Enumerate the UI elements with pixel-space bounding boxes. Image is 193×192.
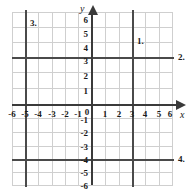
y-tick-label: -4 <box>77 156 88 165</box>
x-axis <box>12 104 177 106</box>
line-label-1: 1. <box>137 37 144 46</box>
line-label-3: 3. <box>30 19 37 28</box>
y-tick-label: -2 <box>77 129 88 138</box>
grid-lines <box>0 0 193 192</box>
x-tick-label: 3 <box>130 110 135 119</box>
y-tick-label: -1 <box>77 116 88 125</box>
y-tick-label: 4 <box>80 44 88 53</box>
y-tick-label: -5 <box>77 169 88 178</box>
x-tick-label: 6 <box>168 110 173 119</box>
y-tick-label: -6 <box>77 182 88 191</box>
plotted-line-y-equals-minus-4 <box>12 159 174 161</box>
x-axis-label: x <box>180 110 184 120</box>
y-axis-arrow-icon <box>88 5 98 15</box>
y-tick-label: 6 <box>80 16 88 25</box>
line-label-2: 2. <box>178 53 185 62</box>
x-tick-label: -5 <box>21 110 29 119</box>
y-tick-label: -3 <box>77 143 88 152</box>
plotted-line-x-equals-3 <box>132 10 134 187</box>
y-axis <box>91 15 93 185</box>
line-label-4: 4. <box>178 155 185 164</box>
y-tick-label: 3 <box>80 57 88 66</box>
y-tick-label: 2 <box>80 72 88 81</box>
x-tick-label: 2 <box>117 110 122 119</box>
x-tick-label: 1 <box>103 110 108 119</box>
y-axis-label: y <box>80 4 84 14</box>
x-tick-label: -3 <box>48 110 56 119</box>
y-tick-label: 5 <box>80 30 88 39</box>
x-tick-label: 4 <box>143 110 148 119</box>
x-tick-label: -4 <box>34 110 42 119</box>
plotted-line-x-equals-minus-5 <box>25 10 27 187</box>
y-tick-label: 1 <box>80 87 88 96</box>
x-tick-label: -6 <box>8 110 16 119</box>
plotted-line-y-equals-3 <box>12 57 174 59</box>
x-tick-label: -2 <box>61 110 69 119</box>
x-tick-label: 5 <box>157 110 162 119</box>
gridline-horizontal <box>12 185 173 186</box>
coordinate-grid-figure: y x -6 -5 -4 -3 -2 -1 0 1 2 3 4 5 6 6 5 … <box>0 0 193 192</box>
